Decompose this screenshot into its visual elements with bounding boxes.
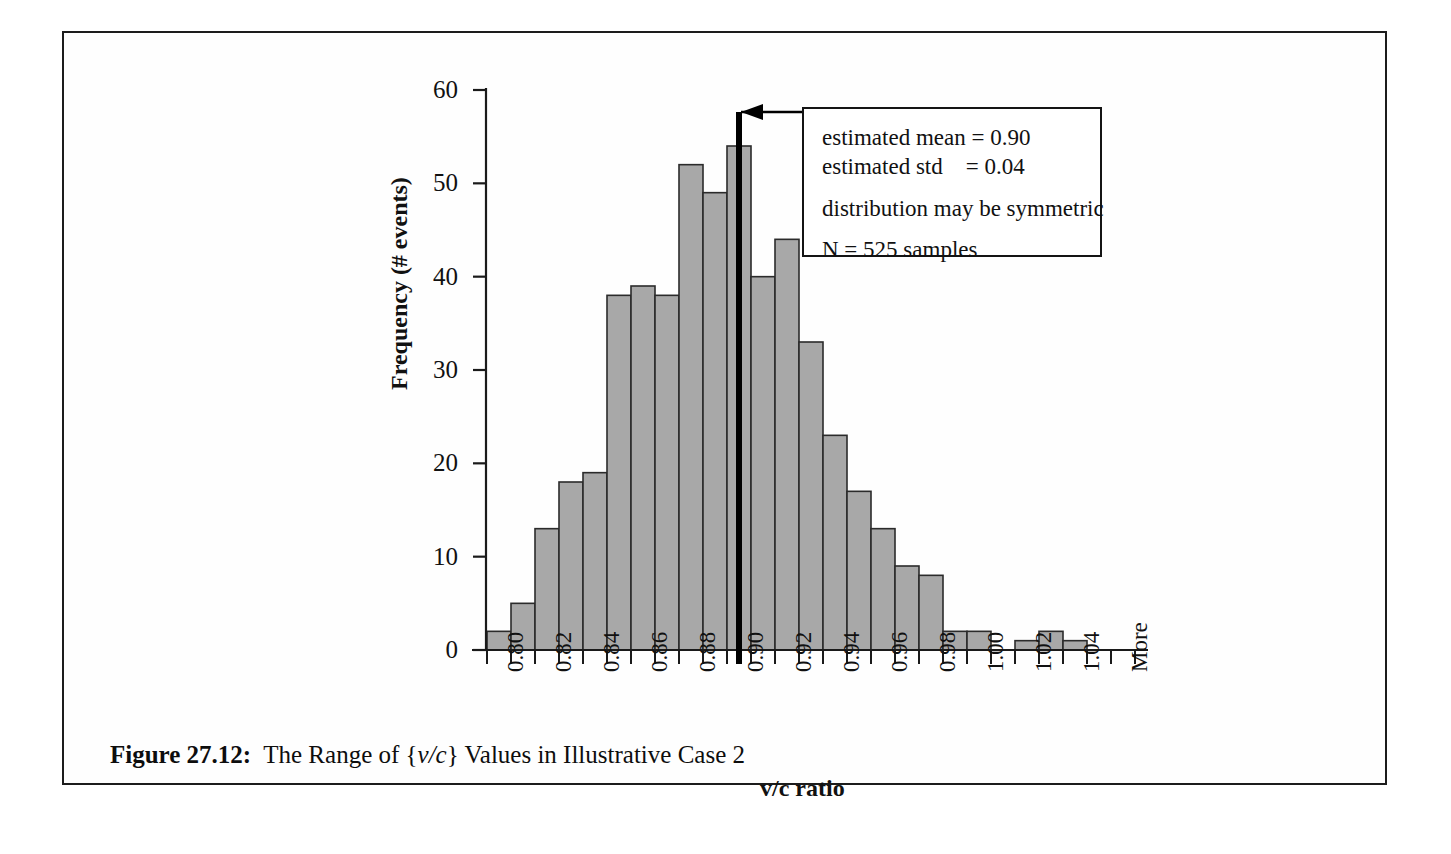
x-axis-tick-label: 0.90: [744, 632, 767, 672]
histogram-bar: [799, 342, 823, 650]
histogram-bar: [823, 435, 847, 650]
x-axis-tick-label: 0.82: [552, 632, 575, 672]
pointer-arrow-head: [741, 104, 763, 120]
x-axis-tick-label: 0.94: [840, 632, 863, 672]
x-axis-tick-label: 0.88: [696, 632, 719, 672]
figure-caption: Figure 27.12: The Range of {v/c} Values …: [110, 741, 745, 769]
y-axis-tick-label: 40: [414, 264, 458, 289]
figure-frame: 0102030405060 0.800.820.840.860.880.900.…: [62, 31, 1387, 785]
histogram-bar: [583, 473, 607, 650]
x-axis-tick-label: 1.00: [984, 632, 1007, 672]
histogram-bar: [559, 482, 583, 650]
caption-text-before: The Range of {: [263, 741, 417, 768]
histogram-bar: [847, 491, 871, 650]
caption-space: [251, 741, 263, 768]
y-axis-tick-label: 30: [414, 357, 458, 382]
annotation-line-samples: N = 525 samples: [822, 235, 1100, 264]
y-axis-tick-label: 50: [414, 170, 458, 195]
histogram-bar: [751, 277, 775, 650]
y-axis-title: Frequency (# events): [386, 177, 413, 390]
x-axis-tick-label: 0.86: [648, 632, 671, 672]
histogram-svg: [64, 33, 1389, 787]
annotation-spacer-2: [822, 223, 1100, 235]
annotation-line-std: estimated std = 0.04: [822, 152, 1100, 181]
x-axis-tick-label: 0.98: [936, 632, 959, 672]
histogram-bar: [775, 239, 799, 650]
caption-text-after: } Values in Illustrative Case 2: [447, 741, 745, 768]
histogram-bar: [607, 295, 631, 650]
y-axis-tick-label: 60: [414, 77, 458, 102]
histogram-bar: [655, 295, 679, 650]
x-axis-tick-label: 1.04: [1080, 632, 1103, 672]
x-axis-tick-label: 0.96: [888, 632, 911, 672]
annotation-spacer-1: [822, 182, 1100, 194]
y-axis-tick-label: 0: [414, 637, 458, 662]
y-axis-tick-label: 20: [414, 450, 458, 475]
histogram-bar: [679, 165, 703, 650]
caption-figure-number: Figure 27.12:: [110, 741, 251, 768]
y-axis-tick-label: 10: [414, 544, 458, 569]
x-axis-tick-label: 1.02: [1032, 632, 1055, 672]
histogram-plot: 0102030405060 0.800.820.840.860.880.900.…: [64, 33, 1389, 787]
annotation-line-symmetry: distribution may be symmetric: [822, 194, 1100, 223]
x-axis-tick-label: More: [1128, 622, 1151, 672]
x-axis-title: v/c ratio: [760, 775, 845, 802]
x-axis-tick-label: 0.80: [504, 632, 527, 672]
histogram-bar: [631, 286, 655, 650]
x-axis-tick-label: 0.92: [792, 632, 815, 672]
x-axis-tick-label: 0.84: [600, 632, 623, 672]
annotation-callout-box: estimated mean = 0.90 estimated std = 0.…: [802, 107, 1102, 257]
pointer-arrow: [741, 104, 802, 120]
histogram-bar: [703, 193, 727, 650]
caption-italic-vc: v/c: [418, 741, 447, 768]
annotation-line-mean: estimated mean = 0.90: [822, 123, 1100, 152]
